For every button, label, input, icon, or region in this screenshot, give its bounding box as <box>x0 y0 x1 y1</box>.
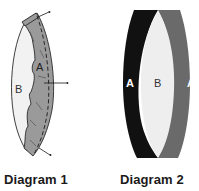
diagram-1-drawing <box>0 0 199 191</box>
diagram-2-label-a-left: A <box>126 78 134 89</box>
diagram-1-label-a: A <box>36 62 43 73</box>
diagram-2-label-b: B <box>154 78 161 89</box>
diagram-1-label-b: B <box>15 84 22 95</box>
lens-diagrams-figure: A B A B A Diagram 1 Diagram 2 <box>0 0 199 191</box>
diagram-2-label-a-right: A <box>187 78 195 89</box>
diagram-2-caption: Diagram 2 <box>120 172 184 187</box>
diagram-1-caption: Diagram 1 <box>4 172 68 187</box>
